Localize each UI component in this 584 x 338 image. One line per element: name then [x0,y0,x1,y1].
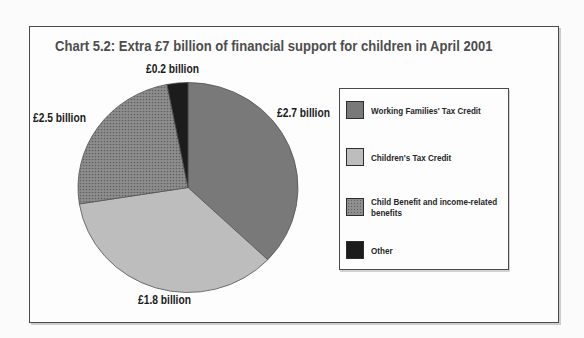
legend-label: Other [371,245,393,256]
legend: Working Families' Tax Credit Children's … [339,88,509,270]
legend-swatch-icon [346,241,364,259]
pie-value-label-childrens-tax-credit: £1.8 billion [138,293,203,307]
pie-value-label-child-benefit: £2.5 billion [33,111,98,125]
legend-label: Working Families' Tax Credit [371,105,481,116]
legend-item-child-benefit: Child Benefit and income-relatedbenefits [346,196,519,218]
legend-swatch-icon [346,198,364,216]
legend-label: Children's Tax Credit [371,152,451,163]
legend-label: Child Benefit and income-relatedbenefits [371,196,497,218]
page: Chart 5.2: Extra £7 billion of financial… [0,0,584,338]
legend-item-other: Other [346,241,396,259]
legend-swatch-icon [346,101,364,119]
legend-item-childrens-tax-credit: Children's Tax Credit [346,148,465,166]
legend-item-working-families-tax-credit: Working Families' Tax Credit [346,101,500,119]
chart-title: Chart 5.2: Extra £7 billion of financial… [55,37,493,54]
pie-value-label-working-families-tax-credit: £2.7 billion [277,106,342,120]
legend-swatch-icon [346,148,364,166]
pie-chart [76,80,300,296]
pie-value-label-other: £0.2 billion [146,62,211,76]
